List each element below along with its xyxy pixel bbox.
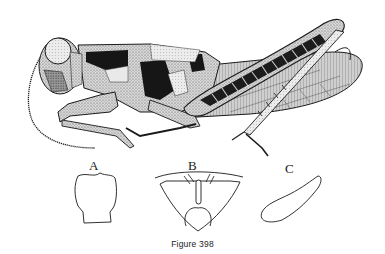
figure-398: A B C Figure 398 <box>0 0 385 254</box>
figure-caption: Figure 398 <box>0 239 385 249</box>
panel-c-outline <box>0 0 385 254</box>
